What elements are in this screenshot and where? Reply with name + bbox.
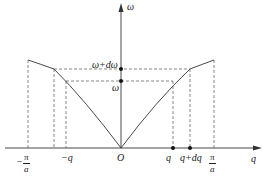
point-omega xyxy=(119,79,123,83)
dispersion-diagram xyxy=(0,0,269,182)
x-axis-label: q xyxy=(251,154,256,164)
omega-label: ω xyxy=(112,83,119,93)
pi-symbol: π xyxy=(209,153,216,164)
dispersion-curve xyxy=(28,60,121,148)
x-axis-arrow-icon xyxy=(253,146,262,151)
origin-label: O xyxy=(117,153,124,163)
neg-q-label: −q xyxy=(61,153,73,163)
pi-symbol: π xyxy=(23,153,30,164)
dispersion-curve-right xyxy=(121,60,214,148)
y-axis-arrow-icon xyxy=(119,3,124,12)
point-q-dq xyxy=(188,146,192,150)
neg-pi-over-a-label: π a xyxy=(23,153,30,174)
q-dq-label: q+dq xyxy=(180,153,202,163)
a-symbol: a xyxy=(23,164,30,174)
omega-dw-label: ω+dω xyxy=(92,60,118,70)
y-axis-label: ω xyxy=(127,2,134,12)
point-omega-dw xyxy=(119,67,123,71)
figure-caption xyxy=(30,169,240,177)
point-q xyxy=(171,146,175,150)
neg-sign: − xyxy=(17,157,23,167)
q-label: q xyxy=(166,153,171,163)
